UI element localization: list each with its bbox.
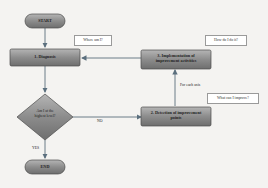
edge-label-for-each-axis: For each axis bbox=[180, 83, 200, 87]
implementation-label: 3. Implementation of improvement activit… bbox=[146, 54, 206, 64]
callout-how-do-i-do-it: How do I do it? bbox=[205, 35, 247, 46]
decision-label: Am I at the highest level? bbox=[31, 109, 59, 119]
edge-label-no: NO bbox=[97, 119, 102, 123]
callout-what-can-i-improve: What can I improve? bbox=[207, 93, 259, 104]
callout-where-am-i: Where am I? bbox=[74, 35, 112, 46]
edge-label-yes: YES bbox=[32, 146, 39, 150]
start-label: START bbox=[25, 19, 65, 24]
diagnosis-label: 1. Diagnosis bbox=[10, 55, 80, 60]
detection-label: 2. Detection of improvement points bbox=[146, 111, 206, 121]
end-label: END bbox=[25, 165, 65, 170]
